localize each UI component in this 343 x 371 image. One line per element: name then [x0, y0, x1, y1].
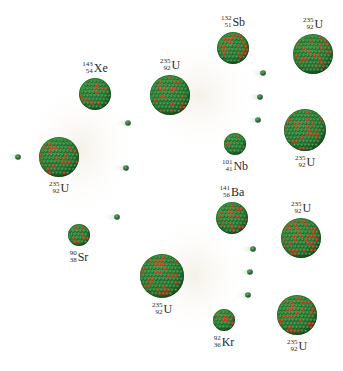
nucleus-u235-right-2	[284, 109, 326, 151]
proton	[310, 311, 313, 314]
neutron-nucleon	[240, 215, 243, 218]
neutron-nucleon	[306, 40, 309, 43]
atomic-number: 92	[155, 309, 162, 316]
neutron-nucleon	[50, 161, 53, 164]
neutron-nucleon	[302, 54, 305, 57]
neutron-nucleon	[172, 84, 175, 87]
neutron-nucleon	[227, 226, 230, 229]
neutron-nucleon	[305, 231, 308, 234]
neutron-nucleon	[295, 47, 298, 50]
neutron-nucleon	[235, 48, 238, 51]
proton	[318, 58, 321, 61]
neutron-nucleon	[233, 52, 236, 55]
neutron-nucleon	[153, 281, 156, 284]
nucleus-u235-right-1	[293, 34, 333, 74]
neutron-nucleon	[222, 311, 225, 314]
nucleons	[140, 256, 183, 295]
proton	[292, 249, 295, 252]
proton	[231, 226, 234, 229]
neutron-nucleon	[324, 47, 327, 50]
proton	[286, 315, 289, 318]
proton	[322, 65, 325, 68]
proton	[241, 52, 244, 55]
isotope-numbers: 13251	[221, 15, 232, 29]
proton	[320, 61, 323, 64]
neutron-nucleon	[164, 281, 167, 284]
neutron-nucleon	[59, 164, 62, 167]
fission-diagram: 23592U14354Xe9038Sr23592U23592U13251Sb10…	[0, 0, 343, 371]
neutron-nucleon	[308, 143, 311, 146]
neutron-nucleon	[231, 139, 234, 142]
neutron-nucleon	[297, 115, 300, 118]
proton	[314, 227, 317, 230]
neutron-nucleon	[224, 41, 227, 44]
neutron-nucleon	[165, 84, 168, 87]
neutron-nucleon	[160, 288, 163, 291]
neutron-nucleon	[304, 143, 307, 146]
neutron-nucleon	[226, 311, 229, 314]
proton	[155, 270, 158, 273]
proton	[162, 285, 165, 288]
element-symbol: Nb	[233, 160, 248, 172]
neutron-trail	[246, 95, 259, 100]
neutron-nucleon	[317, 140, 320, 143]
neutron-nucleon	[234, 226, 237, 229]
neutron-nucleon	[152, 95, 155, 98]
proton	[290, 315, 293, 318]
proton	[224, 315, 227, 318]
neutron-nucleon	[313, 40, 316, 43]
neutron-nucleon	[45, 157, 48, 160]
nucleus-label-u235-right-3: 23592U	[291, 201, 311, 215]
neutron-nucleon	[315, 36, 318, 39]
neutron-nucleon	[295, 326, 298, 329]
proton	[296, 227, 299, 230]
proton	[236, 208, 239, 211]
neutron-nucleon	[231, 146, 234, 149]
atomic-number: 92	[290, 346, 297, 353]
neutron-nucleon	[306, 227, 309, 230]
proton	[220, 211, 223, 214]
neutron-nucleon	[168, 99, 171, 102]
neutron-nucleon	[291, 133, 294, 136]
neutron-nucleon	[50, 153, 53, 156]
neutron-trail	[244, 118, 257, 123]
proton	[296, 249, 299, 252]
neutron-nucleon	[226, 45, 229, 48]
neutron-nucleon	[101, 102, 104, 105]
neutron-nucleon	[175, 91, 178, 94]
neutron-nucleon	[46, 146, 49, 149]
neutron-nucleon	[227, 204, 230, 207]
proton	[174, 81, 177, 84]
neutron-nucleon	[75, 230, 78, 233]
neutron-nucleon	[103, 84, 106, 87]
neutron-nucleon	[50, 168, 53, 171]
neutron-nucleon	[304, 322, 307, 325]
neutron-nucleon	[283, 231, 286, 234]
isotope-numbers: 23592	[160, 58, 171, 72]
neutron-nucleon	[83, 94, 86, 97]
atomic-number: 92	[52, 188, 59, 195]
neutron-nucleon	[97, 87, 100, 90]
neutron-nucleon	[146, 281, 149, 284]
nucleus-label-xe143: 14354Xe	[82, 61, 108, 75]
proton	[226, 38, 229, 41]
neutron-nucleon	[88, 91, 91, 94]
neutron-nucleon	[70, 157, 73, 160]
nucleus-label-u235-right-1: 23592U	[303, 17, 323, 31]
neutron-nucleon	[72, 230, 75, 233]
neutron-nucleon	[315, 43, 318, 46]
nucleus-u235-mid-bottom	[140, 254, 184, 298]
nucleus-label-u235-right-2: 23592U	[295, 155, 315, 169]
neutron-nucleon	[309, 47, 312, 50]
proton	[238, 226, 241, 229]
proton	[64, 161, 67, 164]
proton	[299, 319, 302, 322]
neutron-nucleon	[304, 122, 307, 125]
neutron-nucleon	[77, 233, 80, 236]
neutron-nucleon	[172, 99, 175, 102]
neutron-nucleon	[178, 281, 181, 284]
isotope-numbers: 10141	[222, 159, 233, 173]
neutron-nucleon	[309, 140, 312, 143]
neutron-nucleon	[41, 157, 44, 160]
neutron-nucleon	[225, 215, 228, 218]
